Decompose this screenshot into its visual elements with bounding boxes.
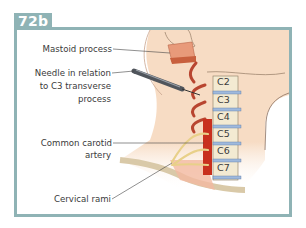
neck-anatomy-illustration [0, 0, 306, 228]
label-needle-line2: to C3 transverse [40, 80, 111, 93]
vertebra-c4: C4 [217, 111, 230, 122]
label-needle-line1: Needle in relation [35, 67, 111, 80]
vertebra-c7: C7 [217, 162, 230, 173]
vertebra-c2: C2 [217, 76, 230, 87]
vertebra-c6: C6 [217, 145, 230, 156]
label-mastoid-process: Mastoid process [43, 43, 112, 56]
common-carotid-artery [203, 119, 212, 175]
label-carotid-line1: Common carotid [41, 137, 112, 150]
leader-needle [112, 71, 134, 73]
label-carotid-line2: artery [85, 149, 111, 162]
label-needle-line3: process [78, 93, 111, 106]
label-cervical-rami: Cervical rami [54, 193, 111, 206]
vertebra-c5: C5 [217, 128, 230, 139]
vertebra-c3: C3 [217, 94, 230, 105]
